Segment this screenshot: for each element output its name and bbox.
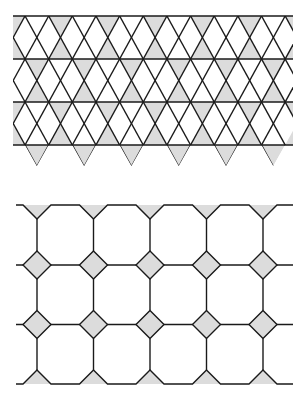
tiling-figure — [0, 0, 308, 394]
octagon-lines — [16, 205, 293, 384]
octagon-square-tiling-pattern — [16, 205, 293, 384]
trihex-group — [0, 16, 308, 166]
trihexagonal-tiling-pattern — [0, 0, 308, 394]
